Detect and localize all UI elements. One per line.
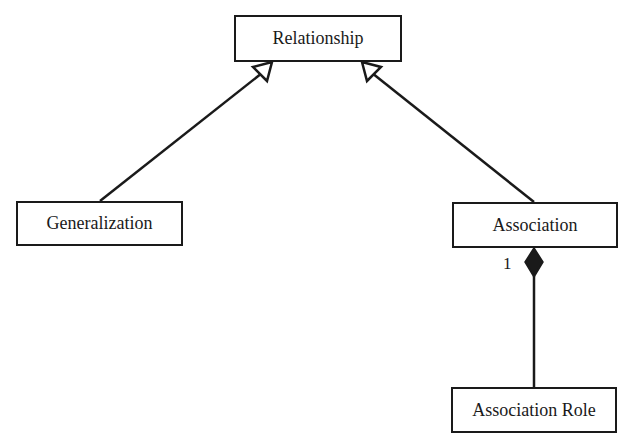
class-box-generalization[interactable]: Generalization [16, 201, 183, 246]
multiplicity-label: 1 [503, 254, 512, 274]
class-label: Association [493, 215, 578, 236]
edge-generalization-to-relationship [100, 62, 272, 201]
edge-association-to-relationship [362, 62, 534, 202]
class-box-association-role[interactable]: Association Role [451, 387, 617, 433]
edge-association-role-to-association [525, 248, 543, 387]
filled-diamond-icon [525, 248, 543, 277]
class-label: Association Role [472, 400, 596, 421]
class-box-relationship[interactable]: Relationship [234, 15, 402, 62]
class-label: Relationship [273, 28, 364, 49]
class-label: Generalization [47, 213, 153, 234]
class-box-association[interactable]: Association [452, 202, 618, 248]
